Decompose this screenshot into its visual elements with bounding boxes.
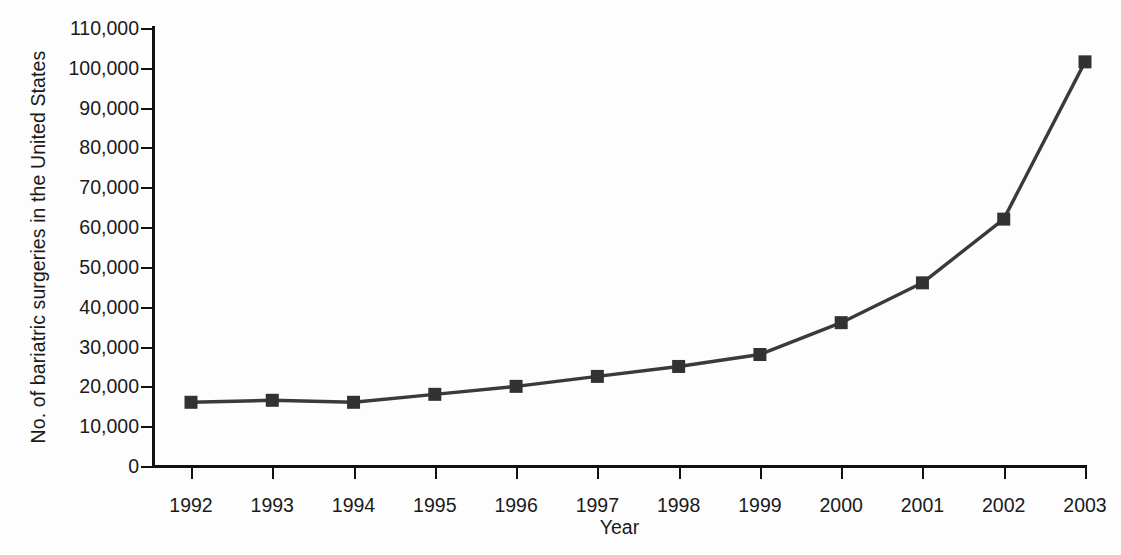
- x-axis-tick-mark: [597, 468, 599, 479]
- x-axis-tick-label: 1993: [251, 494, 294, 517]
- x-axis-tick-label: 1997: [576, 494, 619, 517]
- y-axis-tick-label: 30,000: [44, 335, 148, 358]
- y-axis-tick-mark: [141, 28, 152, 30]
- chart-figure: No. of bariatric surgeries in the United…: [0, 0, 1121, 555]
- y-axis-tick-mark: [141, 227, 152, 229]
- data-point-marker: [510, 380, 523, 393]
- x-axis-tick-label: 1999: [738, 494, 781, 517]
- data-point-marker: [997, 213, 1010, 226]
- x-axis-tick-mark: [679, 468, 681, 479]
- plot-area: 1992199319941995199619971998199920002001…: [152, 26, 1087, 468]
- x-axis-tick-mark: [516, 468, 518, 479]
- y-axis-tick-label: 50,000: [44, 255, 148, 278]
- data-point-marker: [672, 360, 685, 373]
- y-axis-tick-mark: [141, 108, 152, 110]
- x-axis-tick-label: 2002: [982, 494, 1025, 517]
- y-axis-tick-label: 10,000: [44, 415, 148, 438]
- x-axis-tick-mark: [841, 468, 843, 479]
- y-axis-tick-label: 20,000: [44, 375, 148, 398]
- x-axis-title: Year: [152, 516, 1087, 539]
- y-axis-tick-mark: [141, 466, 152, 468]
- data-point-marker: [185, 396, 198, 409]
- data-point-marker: [266, 394, 279, 407]
- data-point-marker: [347, 396, 360, 409]
- x-axis-tick-label: 1992: [169, 494, 212, 517]
- x-axis-tick-mark: [1004, 468, 1006, 479]
- y-axis-tick-mark: [141, 307, 152, 309]
- x-axis-tick-mark: [435, 468, 437, 479]
- x-axis-tick-label: 2003: [1063, 494, 1106, 517]
- data-point-marker: [916, 276, 929, 289]
- y-axis-tick-label: 110,000: [44, 17, 148, 40]
- y-axis-tick-label: 100,000: [44, 56, 148, 79]
- series-line: [191, 62, 1085, 402]
- y-axis-tick-mark: [141, 68, 152, 70]
- y-axis-tick-label: 70,000: [44, 176, 148, 199]
- data-series-layer: [152, 26, 1087, 468]
- data-point-marker: [835, 316, 848, 329]
- y-axis-tick-mark: [141, 147, 152, 149]
- data-point-marker: [753, 348, 766, 361]
- x-axis-tick-label: 1996: [494, 494, 537, 517]
- x-axis-tick-mark: [922, 468, 924, 479]
- y-axis-tick-mark: [141, 386, 152, 388]
- x-axis-tick-mark: [354, 468, 356, 479]
- data-point-marker: [428, 388, 441, 401]
- y-axis-tick-label: 0: [44, 455, 148, 478]
- x-axis-tick-mark: [191, 468, 193, 479]
- y-axis-tick-label: 40,000: [44, 295, 148, 318]
- x-axis-tick-mark: [1085, 468, 1087, 479]
- y-axis-tick-mark: [141, 267, 152, 269]
- y-axis-tick-label: 60,000: [44, 216, 148, 239]
- x-axis-tick-label: 1995: [413, 494, 456, 517]
- x-axis-tick-label: 2001: [901, 494, 944, 517]
- y-axis-tick-mark: [141, 347, 152, 349]
- y-axis-tick-mark: [141, 426, 152, 428]
- x-axis-tick-label: 2000: [819, 494, 862, 517]
- x-axis-tick-mark: [272, 468, 274, 479]
- y-axis-tick-label-group: 110,000100,00090,00080,00070,00060,00050…: [44, 0, 148, 555]
- x-axis-tick-label: 1994: [332, 494, 375, 517]
- x-axis-tick-mark: [760, 468, 762, 479]
- data-point-marker: [1079, 55, 1092, 68]
- y-axis-tick-label: 90,000: [44, 96, 148, 119]
- y-axis-tick-label: 80,000: [44, 136, 148, 159]
- y-axis-tick-mark: [141, 187, 152, 189]
- data-point-marker: [591, 370, 604, 383]
- x-axis-tick-label: 1998: [657, 494, 700, 517]
